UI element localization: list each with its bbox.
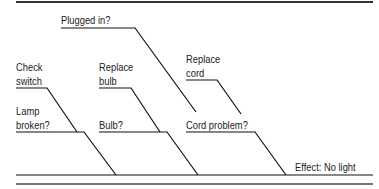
effect-label: Effect: No light	[295, 161, 356, 174]
broken-label: broken?	[16, 119, 50, 132]
bulb-label: Bulb?	[99, 119, 123, 132]
cord-problem-branch	[186, 132, 286, 175]
plugged-in-label: Plugged in?	[61, 14, 110, 27]
replace-bulb-line1: Replace	[99, 61, 133, 74]
bulb-branch	[99, 132, 198, 175]
fishbone-diagram: Plugged in? Check switch Replace bulb Re…	[0, 0, 379, 189]
replace-cord-line1: Replace	[186, 53, 220, 66]
lamp-label: Lamp	[16, 105, 39, 118]
switch-label: switch	[16, 75, 42, 88]
replace-bulb-line2: bulb	[99, 75, 117, 88]
check-label: Check	[16, 61, 43, 74]
lamp-broken-branch	[16, 132, 116, 175]
cord-problem-label: Cord problem?	[186, 119, 248, 132]
replace-cord-line2: cord	[186, 67, 204, 80]
